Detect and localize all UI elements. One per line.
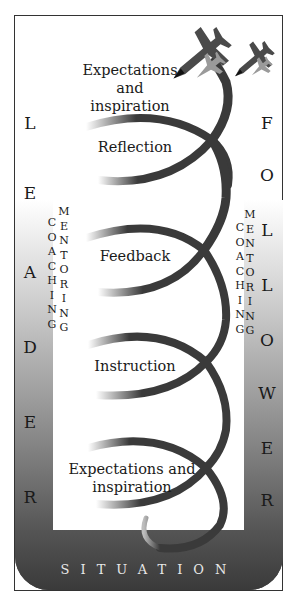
leader-letter: E	[20, 412, 40, 432]
follower-letter: F	[257, 113, 277, 133]
label-line: Expectations	[80, 61, 180, 79]
letter: A	[48, 245, 56, 260]
letter: C	[236, 265, 244, 280]
stage-instruction: Instruction	[85, 357, 185, 375]
stage-expectations-bottom: Expectations and inspiration	[68, 460, 196, 496]
leader-letter: D	[20, 337, 40, 357]
letter: I	[50, 289, 54, 304]
follower-letter: L	[257, 275, 277, 295]
letter: T	[60, 249, 67, 264]
follower-letter: O	[257, 165, 277, 185]
letter: T	[246, 252, 253, 267]
follower-letter: W	[257, 383, 277, 403]
follower-letter: R	[257, 490, 277, 510]
leader-letter: L	[20, 113, 40, 133]
letter: E	[60, 220, 68, 235]
letter: E	[246, 223, 254, 238]
stage-expectations-top: Expectations and inspiration	[80, 61, 180, 115]
fighter-jet-small-icon	[226, 36, 280, 88]
letter: N	[47, 303, 57, 318]
letter: C	[48, 260, 56, 275]
letter: I	[62, 292, 66, 307]
letter: C	[236, 221, 244, 236]
letter: I	[248, 295, 252, 310]
left-mentoring-column: M E N T O R I N G	[58, 205, 70, 336]
letter: H	[47, 274, 57, 289]
follower-letter: L	[257, 220, 277, 240]
letter: C	[48, 216, 56, 231]
left-coaching-column: C O A C H I N G	[46, 216, 58, 332]
follower-letter: O	[257, 330, 277, 350]
letter: O	[47, 231, 56, 246]
leader-letter: E	[20, 183, 40, 203]
stage-reflection: Reflection	[90, 138, 180, 156]
letter: N	[245, 237, 255, 252]
leader-letter: A	[20, 262, 40, 282]
situation-label: SITUATION	[15, 562, 283, 577]
letter: M	[58, 205, 69, 220]
letter: N	[245, 310, 255, 325]
letter: M	[244, 208, 255, 223]
letter: O	[245, 266, 254, 281]
label-line: and	[80, 79, 180, 97]
letter: I	[238, 294, 242, 309]
letter: G	[60, 321, 69, 336]
label-line: Expectations and	[68, 460, 196, 478]
label-line: inspiration	[80, 97, 180, 115]
label-line: inspiration	[68, 478, 196, 496]
stage-feedback: Feedback	[90, 247, 180, 265]
follower-letter: E	[257, 438, 277, 458]
letter: N	[59, 234, 69, 249]
right-mentoring-column: M E N T O R I N G	[244, 208, 256, 339]
letter: G	[48, 318, 57, 333]
letter: G	[246, 324, 255, 339]
leader-letter: R	[20, 487, 40, 507]
letter: R	[60, 278, 68, 293]
letter: N	[59, 307, 69, 322]
letter: A	[236, 250, 244, 265]
letter: O	[59, 263, 68, 278]
letter: R	[246, 281, 254, 296]
